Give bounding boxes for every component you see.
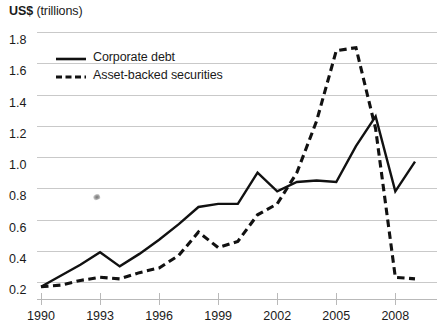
y-tick-label-1.2: 1.2 [9,128,26,141]
y-tick-label-1.6: 1.6 [9,65,26,78]
legend-item-asset-backed-securities: Asset-backed securities [56,66,223,84]
y-tick-label-0.4: 0.4 [9,253,26,266]
y-tick-label-0.8: 0.8 [9,190,26,203]
x-tick-label-2008: 2008 [381,310,409,323]
chart-legend: Corporate debtAsset-backed securities [56,48,223,84]
x-tick-label-1996: 1996 [145,310,173,323]
y-tick-label-1.0: 1.0 [9,159,26,172]
x-tick-label-1999: 1999 [204,310,232,323]
x-tick-label-2002: 2002 [263,310,291,323]
y-tick-label-0.2: 0.2 [9,284,26,297]
legend-label: Asset-backed securities [93,68,223,82]
x-tick-label-2005: 2005 [322,310,350,323]
legend-label: Corporate debt [93,50,175,64]
y-tick-label-0.6: 0.6 [9,222,26,235]
chart-container: US$ (trillions) 1.81.61.41.21.00.80.60.4… [0,0,440,330]
x-tick-label-1993: 1993 [86,310,114,323]
y-tick-label-1.4: 1.4 [9,97,26,110]
legend-item-corporate-debt: Corporate debt [56,48,223,66]
legend-swatch-dashed-line-icon [56,69,86,81]
legend-swatch-solid-line-icon [56,51,86,63]
y-tick-label-1.8: 1.8 [9,34,26,47]
series-line-corporate-debt [41,116,415,286]
x-tick-label-1990: 1990 [27,310,55,323]
